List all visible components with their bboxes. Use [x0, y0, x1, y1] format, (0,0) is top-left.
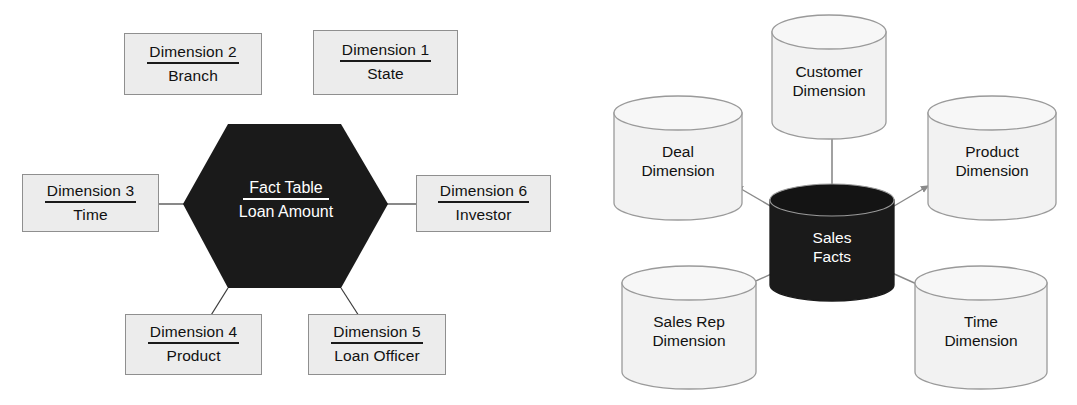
cylinder-time-dimension[interactable]: [915, 266, 1047, 389]
arrow-sales-facts-to-sales-rep-dimension: [736, 255, 813, 290]
product-dimension-line1: Product: [928, 142, 1056, 161]
product-dimension-line2: Dimension: [928, 161, 1056, 180]
dimension-5-subtitle: Loan Officer: [334, 344, 419, 365]
diagram-canvas: Fact Table Loan Amount Dimension 2 Branc…: [0, 0, 1077, 405]
customer-dimension-line2: Dimension: [765, 81, 893, 100]
sales-facts-line1: Sales: [770, 228, 894, 247]
dimension-2-title: Dimension 2: [147, 43, 238, 64]
sales-facts-line2: Facts: [770, 247, 894, 266]
dimension-1-title: Dimension 1: [340, 41, 431, 62]
dimension-3-title: Dimension 3: [45, 182, 136, 203]
arrow-sales-facts-to-time-dimension: [852, 255, 930, 290]
dimension-2-subtitle: Branch: [168, 64, 218, 85]
dimension-box-dimension-3[interactable]: Dimension 3 Time: [22, 174, 159, 232]
dimension-box-dimension-2[interactable]: Dimension 2 Branch: [124, 33, 262, 95]
arrow-sales-facts-to-deal-dimension: [736, 186, 815, 232]
cylinder-sales-rep-dimension[interactable]: [622, 266, 756, 389]
dimension-box-dimension-6[interactable]: Dimension 6 Investor: [416, 175, 551, 232]
dimension-4-subtitle: Product: [166, 344, 220, 365]
dimension-5-title: Dimension 5: [331, 323, 422, 344]
dimension-box-dimension-1[interactable]: Dimension 1 State: [313, 30, 458, 95]
sales-rep-dimension-line1: Sales Rep: [622, 312, 756, 331]
sales-rep-dimension-line2: Dimension: [622, 331, 756, 350]
fact-table-title: Fact Table: [243, 178, 329, 200]
deal-dimension-line2: Dimension: [614, 161, 742, 180]
dimension-box-dimension-5[interactable]: Dimension 5 Loan Officer: [308, 314, 446, 375]
customer-dimension-line1: Customer: [765, 62, 893, 81]
dimension-6-title: Dimension 6: [438, 182, 529, 203]
cylinder-sales-facts[interactable]: [770, 184, 894, 301]
dimension-3-subtitle: Time: [73, 203, 107, 224]
cylinder-customer-dimension[interactable]: [772, 15, 886, 139]
cylinder-schema-graphics: [560, 0, 1077, 405]
dimension-box-dimension-4[interactable]: Dimension 4 Product: [125, 314, 262, 375]
fact-table-label: Fact Table Loan Amount: [222, 178, 350, 222]
star-schema-hexagon-diagram: Fact Table Loan Amount Dimension 2 Branc…: [0, 0, 560, 405]
dimension-4-title: Dimension 4: [148, 323, 239, 344]
arrow-sales-facts-to-product-dimension: [850, 186, 928, 232]
star-schema-cylinder-diagram: Customer Dimension Deal Dimension Produc…: [560, 0, 1077, 405]
fact-table-subtitle: Loan Amount: [239, 200, 333, 222]
deal-dimension-line1: Deal: [614, 142, 742, 161]
dimension-6-subtitle: Investor: [456, 203, 512, 224]
time-dimension-line1: Time: [915, 312, 1047, 331]
dimension-1-subtitle: State: [367, 62, 404, 83]
cylinder-product-dimension[interactable]: [928, 96, 1056, 220]
time-dimension-line2: Dimension: [915, 331, 1047, 350]
cylinder-deal-dimension[interactable]: [614, 96, 742, 220]
